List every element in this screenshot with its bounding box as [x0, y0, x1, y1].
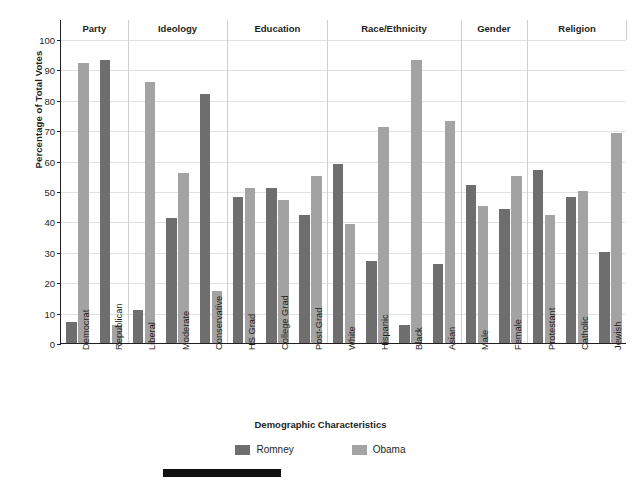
- group-title-religion: Religion: [558, 23, 595, 34]
- y-axis-title: Percentage of Total Votes: [33, 20, 44, 200]
- bar-obama-democrat: [78, 63, 89, 343]
- bar-romney-democrat: [66, 322, 77, 343]
- bar-romney-female: [499, 209, 510, 343]
- x-axis-category-label: Protestant: [547, 308, 557, 350]
- bar-romney-republican: [100, 60, 111, 343]
- y-axis-tick-label: 20: [44, 278, 55, 289]
- group-separator: [527, 20, 528, 343]
- group-header-band: [61, 20, 626, 41]
- bar-romney-jewish: [599, 252, 610, 343]
- group-title-party: Party: [82, 23, 106, 34]
- bar-romney-hs-grad: [233, 197, 244, 343]
- bar-romney-catholic: [566, 197, 577, 343]
- black-rule-artifact: [163, 469, 281, 477]
- y-axis-tick-label: 10: [44, 308, 55, 319]
- x-axis-category-label: Hispanic: [380, 314, 390, 350]
- y-axis-tick-label: 40: [44, 217, 55, 228]
- x-axis-category-label: Democrat: [81, 310, 91, 350]
- legend-item-obama: Obama: [352, 444, 406, 455]
- bar-romney-college-grad: [266, 188, 277, 343]
- bar-obama-liberal: [145, 82, 156, 343]
- x-axis-category-label: White: [347, 326, 357, 350]
- legend-label-romney: Romney: [256, 444, 293, 455]
- group-separator: [327, 20, 328, 343]
- bar-obama-asian: [445, 121, 456, 343]
- legend-label-obama: Obama: [373, 444, 406, 455]
- x-axis-category-label: Catholic: [580, 316, 590, 350]
- bar-romney-post-grad: [299, 215, 310, 343]
- bar-romney-liberal: [133, 310, 144, 343]
- x-axis-category-label: Jewish: [613, 322, 623, 350]
- plot-area: 0102030405060708090100PartyIdeologyEduca…: [60, 20, 626, 344]
- bar-romney-protestant: [533, 170, 544, 343]
- bar-romney-white: [333, 164, 344, 343]
- y-axis-tick-label: 30: [44, 247, 55, 258]
- x-axis-category-label: Female: [513, 319, 523, 350]
- group-separator: [227, 20, 228, 343]
- bar-romney-male: [466, 185, 477, 343]
- bar-romney-moderate: [166, 218, 177, 343]
- x-axis-category-label: College Grad: [280, 295, 290, 350]
- bar-obama-male: [478, 206, 489, 343]
- y-axis-tick-label: 70: [44, 126, 55, 137]
- bars-layer: [61, 40, 626, 343]
- bar-romney-hispanic: [366, 261, 377, 343]
- chart-legend: RomneyObama: [0, 444, 641, 455]
- bar-obama-black: [411, 60, 422, 343]
- group-separator: [461, 20, 462, 343]
- bar-romney-conservative: [200, 94, 211, 343]
- group-title-gender: Gender: [477, 23, 510, 34]
- x-axis-title: Demographic Characteristics: [0, 419, 641, 430]
- legend-swatch-obama: [352, 445, 367, 455]
- x-axis-category-label: Republican: [114, 303, 124, 350]
- x-axis-category-label: Black: [414, 327, 424, 350]
- group-title-education: Education: [254, 23, 300, 34]
- bar-obama-white: [345, 224, 356, 343]
- x-axis-category-label: Post-Grad: [314, 308, 324, 350]
- bar-romney-asian: [433, 264, 444, 343]
- x-axis-category-label: Moderate: [181, 311, 191, 350]
- group-title-race-ethnicity: Race/Ethnicity: [361, 23, 426, 34]
- bar-chart: Percentage of Total Votes 01020304050607…: [0, 0, 641, 484]
- x-axis-category-label: HS Grad: [247, 314, 257, 350]
- group-separator-end: [626, 20, 627, 40]
- y-axis-tick-label: 100: [39, 35, 55, 46]
- x-axis-category-label: Conservative: [214, 296, 224, 350]
- bar-obama-jewish: [611, 133, 622, 343]
- bar-obama-hispanic: [378, 127, 389, 343]
- legend-item-romney: Romney: [235, 444, 293, 455]
- y-axis-tick-label: 0: [50, 339, 55, 350]
- bar-romney-black: [399, 325, 410, 343]
- y-axis-tick-label: 90: [44, 65, 55, 76]
- y-axis-tick-label: 50: [44, 187, 55, 198]
- x-axis-category-label: Asian: [447, 327, 457, 350]
- legend-swatch-romney: [235, 445, 250, 455]
- y-axis-tick-mark: [57, 344, 61, 345]
- y-axis-tick-label: 80: [44, 95, 55, 106]
- x-axis-category-label: Male: [480, 330, 490, 350]
- group-separator: [128, 20, 129, 343]
- bar-obama-female: [511, 176, 522, 343]
- x-axis-category-label: Liberal: [147, 322, 157, 350]
- y-axis-tick-label: 60: [44, 156, 55, 167]
- group-title-ideology: Ideology: [158, 23, 197, 34]
